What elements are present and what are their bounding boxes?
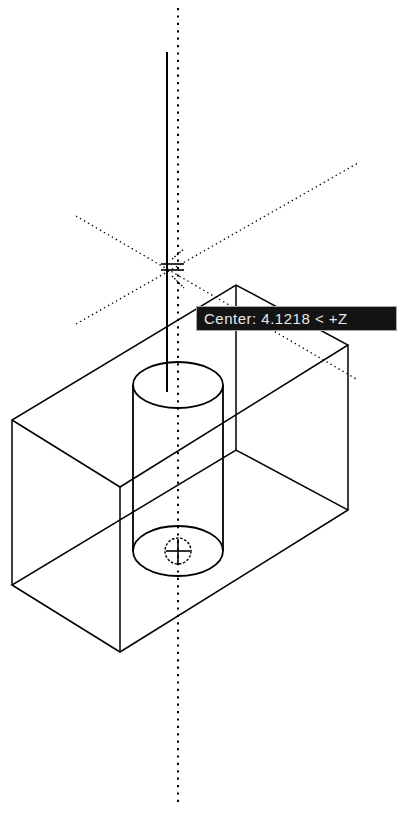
- osnap-tooltip: Center: 4.1218 < +Z: [196, 306, 397, 331]
- cad-viewport[interactable]: [0, 0, 407, 813]
- viewport-background: [0, 0, 407, 813]
- osnap-tooltip-text: Center: 4.1218 < +Z: [204, 310, 348, 327]
